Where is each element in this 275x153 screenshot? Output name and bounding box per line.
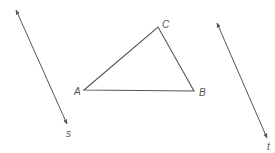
line-t — [217, 23, 267, 138]
line-label-t: t — [267, 141, 271, 152]
diagram-svg: A B C s t — [0, 0, 275, 153]
triangle-abc — [84, 27, 194, 91]
vertex-label-a: A — [73, 86, 81, 97]
vertex-label-b: B — [199, 87, 206, 98]
line-s — [16, 10, 67, 124]
vertex-label-c: C — [162, 19, 170, 30]
geometry-diagram: A B C s t — [0, 0, 275, 153]
line-label-s: s — [66, 128, 71, 139]
